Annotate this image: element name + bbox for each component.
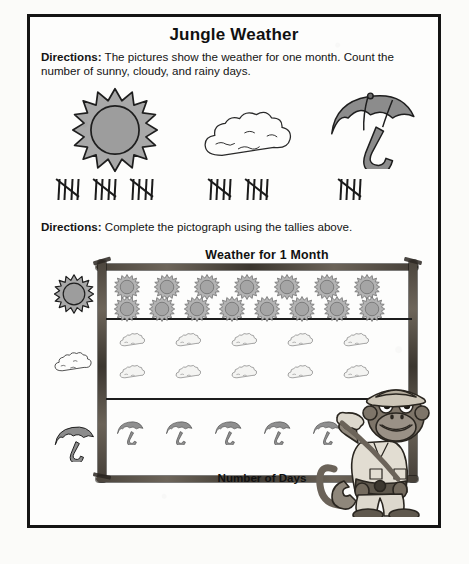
page-title: Jungle Weather — [30, 25, 438, 45]
umbrella-icon — [326, 91, 418, 169]
tally-set-of-five — [340, 177, 370, 203]
pictograph-symbol-sun — [184, 296, 210, 326]
pictograph-symbol-cloud — [230, 364, 260, 385]
tally-set-of-five — [132, 177, 162, 203]
tally-group-rainy — [340, 177, 377, 203]
pictograph-row-sunny-2 — [114, 296, 394, 326]
tally-set-of-five — [247, 177, 277, 203]
tally-marks-row: 15 10 5 — [38, 177, 436, 207]
row-icon-umbrella — [53, 424, 95, 462]
pictograph-symbol-cloud — [286, 364, 316, 385]
tally-set-of-five — [210, 177, 240, 203]
pictograph-symbol-sun — [289, 296, 315, 326]
pictograph-row-cloudy-2 — [118, 364, 398, 385]
chart-title: Weather for 1 Month — [98, 248, 436, 262]
pictograph-symbol-umbrella — [116, 420, 144, 449]
pictograph-symbol-sun — [359, 296, 385, 326]
pictograph-symbol-cloud — [342, 364, 372, 385]
directions-1: Directions: The pictures show the weathe… — [41, 50, 433, 79]
pictograph-symbol-sun — [219, 296, 245, 326]
pictograph-symbol-cloud — [174, 332, 204, 353]
pictograph-symbol-cloud — [230, 332, 260, 353]
worksheet-frame: Jungle Weather Directions: The pictures … — [27, 14, 441, 528]
pictograph-symbol-cloud — [174, 364, 204, 385]
jungle-explorer-monkey — [316, 383, 440, 517]
tally-group-cloudy — [210, 177, 284, 203]
pictograph-symbol-cloud — [118, 364, 148, 385]
pictograph-symbol-umbrella — [263, 420, 291, 449]
tally-set-of-five — [58, 177, 88, 203]
worksheet-page: Jungle Weather Directions: The pictures … — [0, 0, 469, 564]
pictograph-symbol-cloud — [118, 332, 148, 353]
pictograph-symbol-sun — [254, 296, 280, 326]
pictograph-symbol-sun — [324, 296, 350, 326]
directions-2: Directions: Complete the pictograph usin… — [41, 220, 433, 234]
tally-cloudy-total: 10 — [38, 177, 39, 178]
cloud-icon — [198, 109, 302, 165]
pictograph-symbol-umbrella — [214, 420, 242, 449]
tally-sunny-total: 15 — [38, 177, 39, 178]
directions-1-label: Directions: — [41, 50, 102, 63]
weather-illustrations — [38, 85, 436, 177]
pictograph-symbol-cloud — [342, 332, 372, 353]
row-icon-cloud — [52, 348, 96, 378]
pictograph-symbol-umbrella — [165, 420, 193, 449]
pictograph-symbol-sun — [114, 296, 140, 326]
pictograph-row-cloudy-1 — [118, 332, 398, 353]
sun-icon — [72, 87, 158, 173]
chart-pole-left — [98, 260, 106, 482]
pictograph-symbol-cloud — [286, 332, 316, 353]
directions-2-label: Directions: — [41, 220, 102, 233]
tally-rainy-total: 5 — [38, 177, 39, 178]
pictograph-symbol-sun — [149, 296, 175, 326]
tally-set-of-five — [95, 177, 125, 203]
tally-group-sunny — [58, 177, 169, 203]
chart-pole-top — [96, 264, 418, 270]
row-icon-sun — [54, 274, 94, 314]
directions-2-text: Complete the pictograph using the tallie… — [102, 220, 353, 233]
